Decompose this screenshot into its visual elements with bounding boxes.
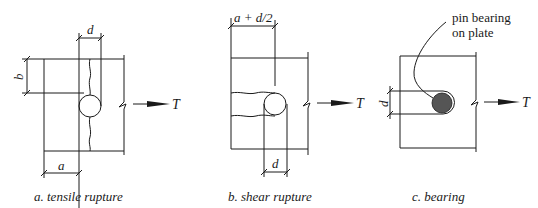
panel-c-bearing: d pin bearing on plate T c. bearing (376, 10, 531, 204)
label-d: d (272, 156, 279, 171)
plate (44, 55, 126, 155)
label-T: T (172, 97, 181, 112)
shear-line-top (231, 92, 275, 93)
caption-a: a. tensile rupture (34, 189, 123, 204)
hole (79, 95, 101, 117)
dimension-a-plus-half-d: a + d/2 (228, 10, 278, 86)
note-line-1: pin bearing (452, 10, 511, 25)
hole (264, 93, 286, 115)
label-b: b (11, 73, 26, 80)
panel-b-shear-rupture: a + d/2 d T b. shear rupture (228, 10, 365, 204)
caption-c: c. bearing (412, 189, 465, 204)
dimension-d: d (376, 86, 393, 119)
force-arrow: T (484, 95, 531, 110)
pin (432, 93, 452, 113)
label-T: T (356, 96, 365, 111)
label-d: d (376, 100, 391, 107)
plate (231, 52, 310, 155)
caption-b: b. shear rupture (228, 189, 312, 204)
panel-a-tensile-rupture: d b a T a. tensile rupture (11, 22, 181, 208)
failure-modes-diagram: d b a T a. tensile rupture (0, 0, 538, 208)
label-d: d (87, 22, 94, 37)
force-arrow: T (133, 97, 181, 112)
label-a: a (58, 158, 65, 173)
dimension-d: d (76, 22, 104, 41)
shear-line-bottom (231, 115, 275, 116)
dimension-a: a (41, 151, 82, 178)
force-arrow: T (317, 96, 365, 111)
label-T: T (522, 95, 531, 110)
note-line-2: on plate (452, 25, 494, 40)
dimension-b: b (11, 56, 84, 96)
label-a-plus-d-over-2: a + d/2 (234, 10, 273, 25)
rupture-line-top (89, 59, 90, 95)
rupture-line-bottom (89, 117, 90, 151)
leader-line (414, 22, 446, 98)
